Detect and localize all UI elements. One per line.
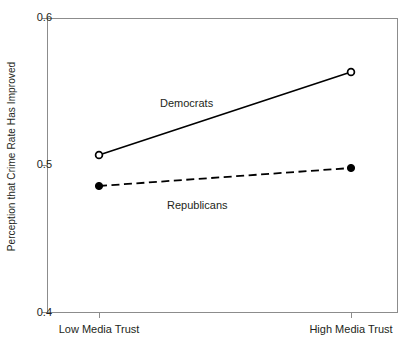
y-tick-label-0-5: 0.5: [12, 159, 52, 170]
plot-area: [0, 0, 409, 351]
data-point-democrats-high-media-trust: [348, 69, 355, 76]
x-tick-label-low-media-trust: Low Media Trust: [59, 323, 140, 335]
x-tick-label-high-media-trust: High Media Trust: [309, 323, 392, 335]
plot-frame: [48, 19, 398, 313]
y-tick-label-0-6: 0.6: [12, 12, 52, 23]
line-chart-figure: Perception that Crime Rate Has Improved …: [0, 0, 409, 351]
series-label-republicans: Republicans: [167, 199, 228, 211]
data-point-republicans-high-media-trust: [347, 164, 354, 171]
y-tick-label-0-4: 0.4: [12, 307, 52, 318]
data-point-republicans-low-media-trust: [95, 182, 102, 189]
series-label-democrats: Democrats: [160, 97, 213, 109]
data-point-democrats-low-media-trust: [96, 152, 103, 159]
y-axis-title: Perception that Crime Rate Has Improved: [2, 0, 20, 313]
